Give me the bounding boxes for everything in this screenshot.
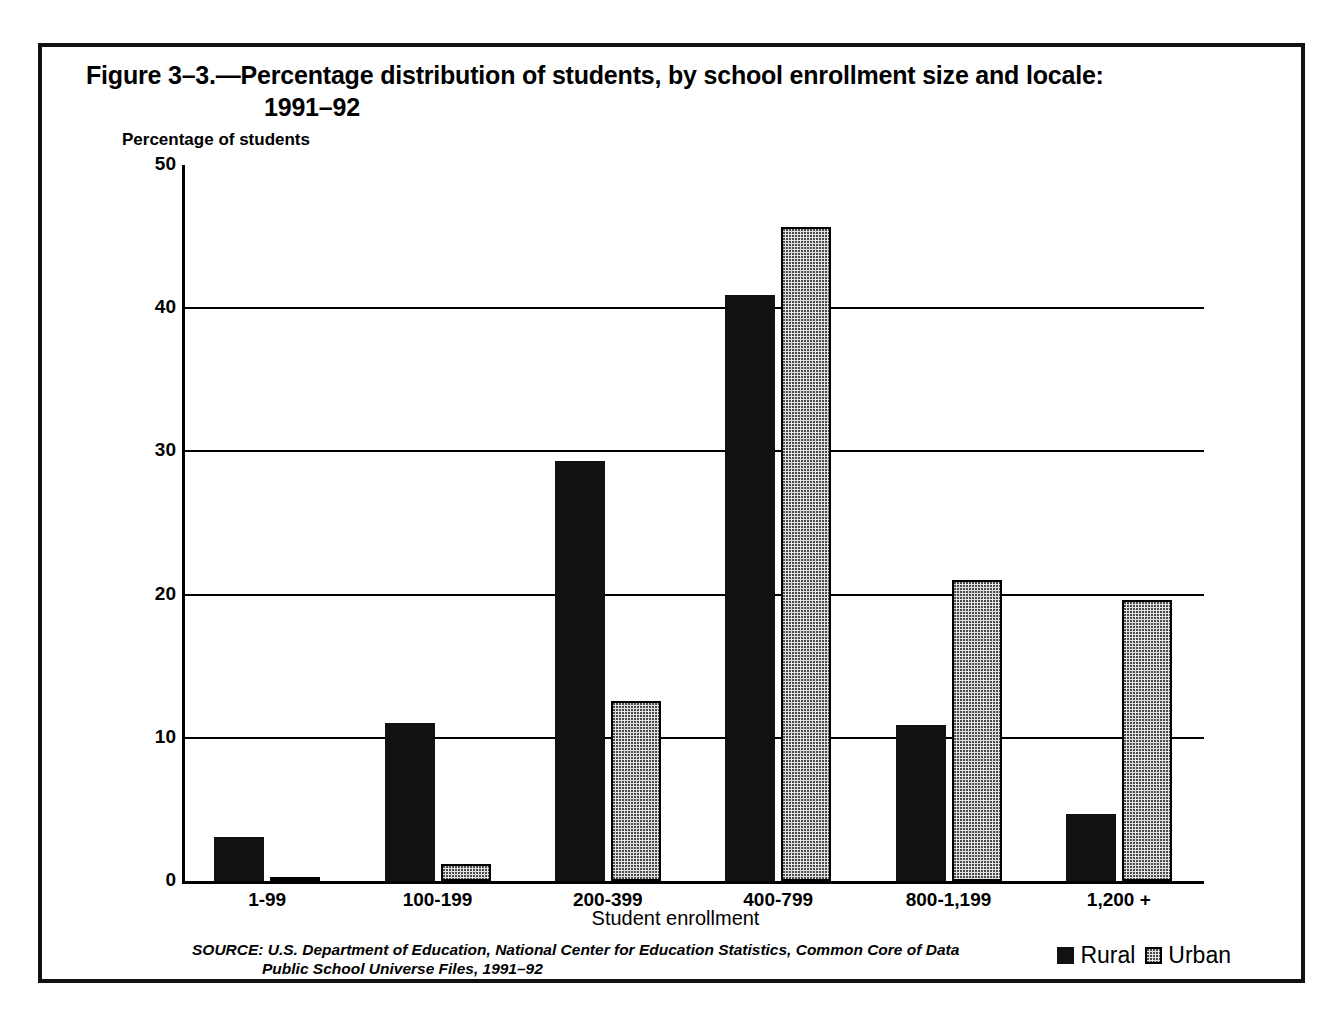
bar-rural-200-399 <box>555 461 605 881</box>
y-tick-label: 40 <box>116 296 176 318</box>
y-tick-label: 0 <box>116 869 176 891</box>
bar-rural-1-200- <box>1066 814 1116 881</box>
figure-frame: Figure 3–3.—Percentage distribution of s… <box>38 43 1305 983</box>
bar-rural-400-799 <box>725 295 775 881</box>
y-axis-line <box>182 165 185 881</box>
bar-rural-100-199 <box>385 723 435 881</box>
legend-entry-urban: Urban <box>1145 942 1231 969</box>
plot-area: 010203040501-99100-199200-399400-799800-… <box>182 165 1204 881</box>
legend-label-rural: Rural <box>1080 942 1135 969</box>
legend-entry-rural: Rural <box>1057 942 1135 969</box>
x-axis-title: Student enrollment <box>42 907 1309 930</box>
bar-rural-1-99 <box>214 837 264 881</box>
bar-urban-200-399 <box>611 701 661 881</box>
y-tick-label: 10 <box>116 726 176 748</box>
source-note-line-1: SOURCE: U.S. Department of Education, Na… <box>192 940 959 959</box>
bar-urban-1-99 <box>270 877 320 881</box>
legend-swatch-urban-icon <box>1145 947 1162 964</box>
legend-label-urban: Urban <box>1168 942 1231 969</box>
source-note: SOURCE: U.S. Department of Education, Na… <box>192 940 959 978</box>
bar-urban-1-200- <box>1122 600 1172 881</box>
gridline <box>182 594 1204 596</box>
x-axis-line <box>182 881 1204 884</box>
y-tick-label: 30 <box>116 439 176 461</box>
y-tick-label: 20 <box>116 583 176 605</box>
bar-urban-100-199 <box>441 864 491 881</box>
figure-title-line-1: Figure 3–3.—Percentage distribution of s… <box>86 59 1266 91</box>
figure-title-line-2: 1991–92 <box>86 91 1266 123</box>
gridline <box>182 450 1204 452</box>
gridline <box>182 737 1204 739</box>
y-tick-label: 50 <box>116 153 176 175</box>
source-note-line-2: Public School Universe Files, 1991–92 <box>192 959 959 978</box>
figure-title: Figure 3–3.—Percentage distribution of s… <box>86 59 1266 123</box>
bar-rural-800-1-199 <box>896 725 946 881</box>
bar-urban-400-799 <box>781 227 831 881</box>
legend: Rural Urban <box>1057 942 1231 969</box>
bar-urban-800-1-199 <box>952 580 1002 881</box>
y-axis-title: Percentage of students <box>122 130 310 150</box>
legend-swatch-rural-icon <box>1057 947 1074 964</box>
gridline <box>182 307 1204 309</box>
